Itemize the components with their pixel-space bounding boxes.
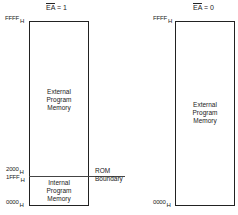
ea-signal: EA [193, 4, 202, 11]
right-bottom-address: 0000H [153, 199, 171, 208]
rom-boundary-label: ROM Boundary [95, 167, 123, 183]
ea-value: = 0 [202, 4, 214, 11]
ea-signal: EA [46, 4, 55, 11]
left-bottom-address: 0000H [6, 199, 24, 208]
boundary-low-address: 1FFFH [6, 174, 25, 183]
right-top-address: FFFFH [153, 15, 172, 24]
ea-value: = 1 [55, 4, 67, 11]
left-external-label: External Program Memory [29, 88, 89, 112]
right-external-label: External Program Memory [175, 101, 235, 125]
left-internal-label: Internal Program Memory [29, 179, 89, 203]
right-title: EA = 0 [193, 4, 214, 11]
left-title: EA = 1 [46, 4, 67, 11]
left-top-address: FFFFH [5, 15, 24, 24]
